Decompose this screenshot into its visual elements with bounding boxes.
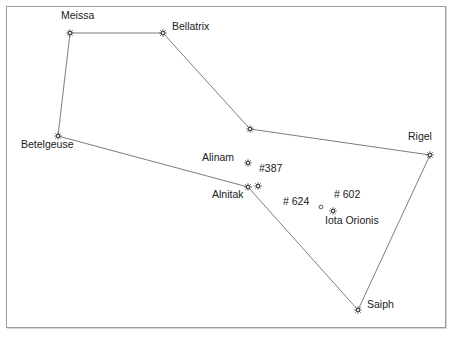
star-marker-rigel[interactable] <box>426 151 433 158</box>
star-label-alinam: Alinam <box>202 152 234 163</box>
star-label-bellatrix: Bellatrix <box>172 21 209 32</box>
star-label-star-602: # 602 <box>334 189 360 200</box>
star-marker-bellatrix[interactable] <box>159 29 166 36</box>
star-markers-group <box>54 29 433 313</box>
star-marker-alinam[interactable] <box>244 159 251 166</box>
constellation-line <box>58 33 70 136</box>
star-label-saiph: Saiph <box>367 299 394 310</box>
star-marker-saiph[interactable] <box>354 306 361 313</box>
star-marker-alnitak[interactable] <box>244 183 251 190</box>
star-marker-star-624[interactable] <box>319 205 323 209</box>
star-label-betelgeuse: Betelgeuse <box>21 139 74 150</box>
constellation-line <box>163 33 250 129</box>
star-label-alnitak: Alnitak <box>212 189 244 200</box>
star-label-rigel: Rigel <box>408 131 432 142</box>
star-chart: MeissaBellatrixBetelgeuseRigelAlinam#387… <box>0 0 457 338</box>
star-label-star-387: #387 <box>259 163 282 174</box>
star-label-iota-orionis: Iota Orionis <box>325 215 379 226</box>
constellation-line <box>358 155 430 310</box>
constellation-lines-group <box>58 33 430 310</box>
star-label-star-624: # 624 <box>283 196 309 207</box>
star-marker-star-387[interactable] <box>254 182 261 189</box>
star-marker-meissa[interactable] <box>66 29 73 36</box>
constellation-line <box>250 129 430 155</box>
constellation-canvas <box>0 0 457 338</box>
star-label-meissa: Meissa <box>61 10 94 21</box>
star-marker-vertex-upper[interactable] <box>246 125 253 132</box>
